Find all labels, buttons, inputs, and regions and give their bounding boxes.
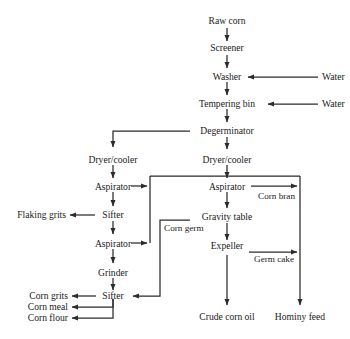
node-washer: Washer xyxy=(213,71,242,82)
node-crude-corn-oil: Crude corn oil xyxy=(199,311,255,322)
node-gravity-table: Gravity table xyxy=(202,211,252,222)
node-screener: Screener xyxy=(210,42,244,53)
node-corn-flour: Corn flour xyxy=(28,312,69,323)
node-degerminator: Degerminator xyxy=(200,125,254,136)
node-water-1: Water xyxy=(322,71,345,82)
node-grinder: Grinder xyxy=(98,267,129,278)
node-sifter-2: Sifter xyxy=(102,290,124,301)
node-corn-meal: Corn meal xyxy=(28,301,69,312)
flowchart-svg: Raw corn Screener Washer Water Tempering… xyxy=(0,0,350,339)
label-germ-cake: Germ cake xyxy=(254,254,294,264)
node-aspirator-right: Aspirator xyxy=(209,181,246,192)
node-dryer-cooler-right: Dryer/cooler xyxy=(202,154,252,165)
node-sifter-1: Sifter xyxy=(102,209,124,220)
node-expeller: Expeller xyxy=(211,240,244,251)
node-raw-corn: Raw corn xyxy=(208,15,245,26)
node-tempering-bin: Tempering bin xyxy=(199,98,255,109)
edge-degerminator-dryerleft xyxy=(113,131,190,147)
flowchart-canvas: Raw corn Screener Washer Water Tempering… xyxy=(0,0,350,339)
edge-sifter2-cornflour xyxy=(72,299,113,318)
node-corn-grits: Corn grits xyxy=(29,290,68,301)
label-corn-germ: Corn germ xyxy=(164,223,204,233)
node-hominy-feed: Hominy feed xyxy=(275,311,326,322)
label-corn-bran: Corn bran xyxy=(258,191,295,201)
node-aspirator-left-1: Aspirator xyxy=(95,181,132,192)
node-aspirator-left-2: Aspirator xyxy=(95,238,132,249)
node-dryer-cooler-left: Dryer/cooler xyxy=(88,154,138,165)
node-water-2: Water xyxy=(322,98,345,109)
node-flaking-grits: Flaking grits xyxy=(17,209,66,220)
